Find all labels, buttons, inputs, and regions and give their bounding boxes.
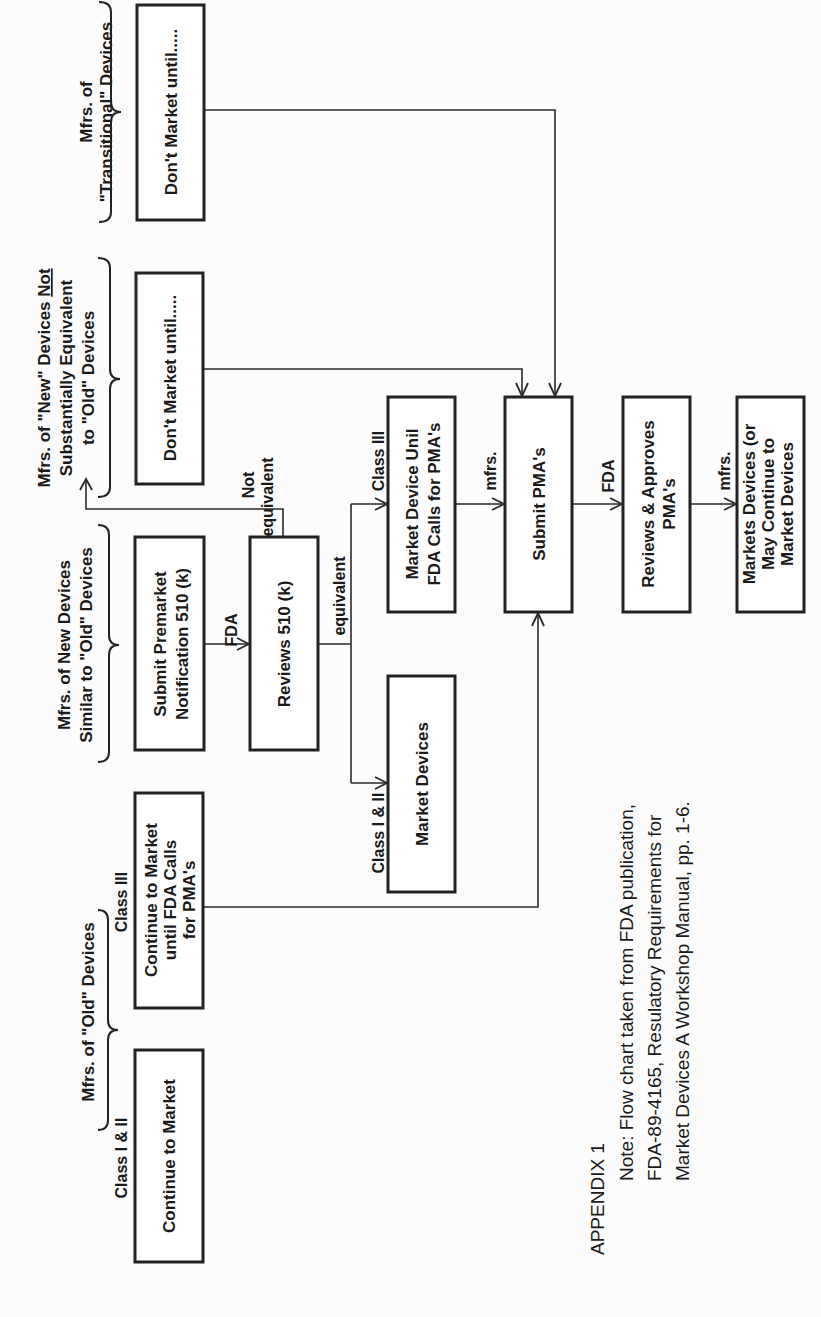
box-text: May Continue to: [759, 438, 778, 570]
edge-label-class-i-ii: Class I & II: [370, 793, 387, 874]
edge-label-fda: FDA: [223, 613, 240, 646]
box-text: for PMA's: [180, 861, 199, 940]
box-dont-market-transitional: Don't Market until.....: [137, 5, 204, 220]
appendix-note: APPENDIX 1 Note: Flow chart taken from F…: [587, 801, 693, 1255]
box-text: Don't Market until.....: [161, 295, 180, 462]
box-reviews-510k: Reviews 510 (k): [250, 537, 318, 750]
box-continue-to-market: Continue to Market: [135, 1050, 203, 1262]
box-text: Continue to Market: [160, 1079, 179, 1233]
box-continue-until-fda: Continue to Market until FDA Calls for P…: [135, 793, 203, 1008]
header-line: Mfrs. of: [77, 81, 96, 143]
flowchart-page: Mfrs. of "Transitional" Devices Mfrs. of…: [0, 0, 821, 1317]
box-submit-premarket: Submit Premarket Notification 510 (k): [135, 537, 204, 750]
box-market-devices: Market Devices: [388, 676, 455, 892]
box-text: Markets Devices (or: [740, 423, 759, 584]
edge-label-not: Not: [240, 471, 257, 498]
header-line: Mfrs. of "Old" Devices: [79, 922, 98, 1102]
edge-label-mfrs: mfrs.: [716, 451, 733, 490]
box-text: Continue to Market: [142, 823, 161, 977]
header-line: "Transitional" Devices: [97, 22, 116, 203]
box-text: Reviews 510 (k): [275, 581, 294, 708]
box-text: FDA Calls for PMA's: [425, 422, 444, 585]
note-line: FDA-89-4165, Resulatory Requirements for: [644, 814, 665, 1181]
box-submit-pma: Submit PMA's: [505, 397, 572, 612]
class-iii-label: Class III: [113, 872, 130, 932]
class-i-ii-label: Class I & II: [113, 1118, 130, 1199]
box-text: Market Devices: [413, 722, 432, 846]
box-text: until FDA Calls: [161, 840, 180, 960]
brace-icon: [98, 525, 119, 762]
appendix-title: APPENDIX 1: [587, 1143, 608, 1255]
header-line: Substantially Equivalent: [57, 279, 76, 476]
edge-label-fda: FDA: [600, 459, 617, 492]
box-text: Submit Premarket: [151, 571, 170, 717]
brace-icon: [98, 910, 118, 1130]
box-text: Market Devices: [778, 442, 797, 566]
box-market-device-until: Market Device Unil FDA Calls for PMA's: [388, 397, 455, 612]
brace-icon: [98, 258, 120, 497]
box-text: Don't Market until.....: [162, 29, 181, 196]
group-header-old: Mfrs. of "Old" Devices Class I & II Clas…: [79, 872, 130, 1199]
box-markets-devices: Markets Devices (or May Continue to Mark…: [737, 397, 804, 612]
edge-label-mfrs: mfrs.: [482, 451, 499, 490]
group-header-transitional: Mfrs. of "Transitional" Devices: [77, 2, 121, 222]
header-line: Mfrs. of New Devices: [55, 560, 74, 730]
group-header-new-similar: Mfrs. of New Devices Similar to "Old" De…: [55, 525, 119, 762]
edge-label-not-equivalent: equivalent: [259, 457, 276, 537]
header-line: Similar to "Old" Devices: [77, 547, 96, 743]
box-text: PMA's: [660, 478, 679, 529]
edge-label-class-iii: Class III: [370, 431, 387, 491]
note-line: Market Devices A Workshop Manual, pp. 1-…: [672, 801, 693, 1181]
box-dont-market-new: Don't Market until.....: [136, 273, 203, 484]
edge-label-equivalent: equivalent: [331, 556, 348, 636]
header-line: to "Old" Devices: [79, 311, 98, 445]
box-text: Notification 510 (k): [173, 568, 192, 720]
header-line: Mfrs. of "New" Devices Not: [35, 268, 54, 488]
group-header-new-not-equivalent: Mfrs. of "New" Devices Not Substantially…: [35, 258, 120, 497]
box-text: Submit PMA's: [530, 447, 549, 561]
box-text: Reviews & Approves: [639, 420, 658, 588]
box-text: Market Device Unil: [403, 428, 422, 579]
box-reviews-approves: Reviews & Approves PMA's: [623, 397, 690, 612]
note-line: Note: Flow chart taken from FDA publicat…: [616, 804, 637, 1181]
